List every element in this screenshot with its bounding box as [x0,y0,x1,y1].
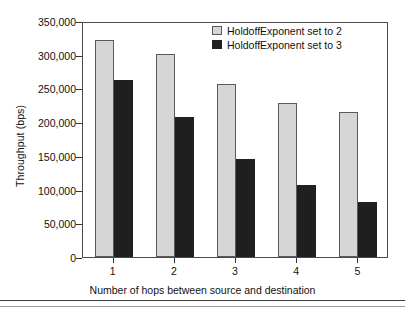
bar [114,80,133,257]
bar [358,202,377,257]
bar [156,54,175,257]
bar [278,103,297,257]
bar-chart-figure: Throughput (bps) 050,000100,000150,00020… [0,0,405,313]
plot-area [82,22,388,258]
y-axis-tick-label: 150,000 [20,151,76,163]
chart-legend: HoldoffExponent set to 2 HoldoffExponent… [212,24,342,52]
bar [236,159,255,257]
y-axis-tick-label: 250,000 [20,83,76,95]
bar [339,112,358,257]
legend-item: HoldoffExponent set to 3 [212,38,342,51]
bar [175,117,194,257]
legend-item-label: HoldoffExponent set to 3 [227,39,342,51]
x-axis-tick-label: 2 [159,265,189,277]
x-axis-tick-label: 3 [220,265,250,277]
bar [95,40,114,257]
footer-rule-secondary [0,306,405,307]
y-axis-tick-mark [76,56,82,57]
y-axis-tick-mark [76,22,82,23]
y-axis-tick-mark [76,258,82,259]
y-axis-tick-mark [76,89,82,90]
light-swatch-icon [212,26,222,35]
x-axis-tick-mark [357,258,358,263]
y-axis-tick-label: 300,000 [20,50,76,62]
y-axis-tick-mark [76,191,82,192]
footer-rule [0,300,405,301]
y-axis-tick-mark [76,224,82,225]
bar [217,84,236,257]
legend-item: HoldoffExponent set to 2 [212,24,342,37]
x-axis-tick-mark [296,258,297,263]
y-axis-tick-labels: 050,000100,000150,000200,000250,000300,0… [16,0,76,313]
dark-swatch-icon [212,40,222,49]
legend-item-label: HoldoffExponent set to 2 [227,25,342,37]
x-axis-tick-label: 1 [98,265,128,277]
x-axis-tick-label: 5 [342,265,372,277]
x-axis-title: Number of hops between source and destin… [0,284,405,296]
y-axis-tick-mark [76,123,82,124]
x-axis-tick-label: 4 [281,265,311,277]
y-axis-tick-label: 350,000 [20,16,76,28]
bar [297,185,316,257]
x-axis-tick-mark [174,258,175,263]
y-axis-tick-label: 50,000 [20,218,76,230]
y-axis-tick-mark [76,157,82,158]
x-axis-tick-mark [235,258,236,263]
x-axis-tick-mark [113,258,114,263]
y-axis-tick-label: 100,000 [20,185,76,197]
y-axis-tick-label: 0 [20,252,76,264]
y-axis-tick-label: 200,000 [20,117,76,129]
